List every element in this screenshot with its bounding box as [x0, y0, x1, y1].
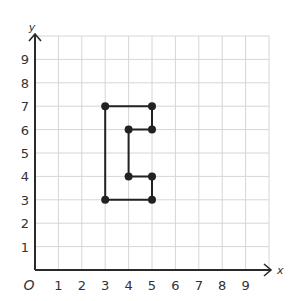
coordinate-grid-chart: xyO 123456789123456789	[0, 0, 292, 301]
y-tick-label: 8	[21, 76, 29, 91]
x-tick-label: 5	[148, 278, 156, 293]
y-axis-label: y	[28, 21, 36, 34]
grid-lines	[35, 36, 269, 270]
vertex-point	[101, 196, 109, 204]
x-tick-label: 9	[241, 278, 249, 293]
vertex-point	[125, 172, 133, 180]
y-tick-label: 2	[21, 216, 29, 231]
x-tick-label: 6	[171, 278, 179, 293]
vertex-point	[125, 126, 133, 134]
y-tick-label: 6	[21, 123, 29, 138]
vertex-point	[148, 102, 156, 110]
origin-label: O	[23, 277, 34, 293]
vertex-point	[148, 172, 156, 180]
x-tick-label: 4	[124, 278, 132, 293]
x-tick-label: 1	[54, 278, 62, 293]
y-tick-label: 4	[21, 169, 29, 184]
vertex-point	[101, 102, 109, 110]
y-tick-label: 3	[21, 193, 29, 208]
tick-labels: 123456789123456789	[21, 52, 250, 293]
x-tick-label: 7	[195, 278, 203, 293]
vertex-point	[148, 126, 156, 134]
x-tick-label: 2	[78, 278, 86, 293]
y-tick-label: 5	[21, 146, 29, 161]
x-tick-label: 8	[218, 278, 226, 293]
vertex-point	[148, 196, 156, 204]
y-tick-label: 1	[21, 240, 29, 255]
y-tick-label: 7	[21, 99, 29, 114]
axes: xyO	[23, 21, 284, 293]
y-tick-label: 9	[21, 52, 29, 67]
x-axis-label: x	[276, 264, 284, 277]
x-tick-label: 3	[101, 278, 109, 293]
